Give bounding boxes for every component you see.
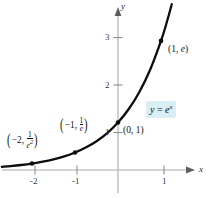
right-paren-neg1: ) [84,120,88,131]
point-label-0-1: (0, 1) (0, 1) [123,126,144,136]
neg1-x-part: −-11, [65,121,80,131]
left-paren-neg2: ( [7,135,11,146]
exponential-function-graph-figure: -2 -1 1 1 2 3 x y (1, e) (1, e) (0, 1) (… [0,0,213,198]
x-tick-label-1: 1 [162,177,167,186]
y-axis-label: y [121,2,125,11]
point-label-neg2-1overEsq: (-2, 1/e^2) (−-22, 1e2) [6,131,39,150]
fraction-numerator: 1 [80,117,84,125]
point-dot-neg2 [30,161,35,166]
y-tick-label-2: 2 [105,81,110,90]
equation-equals: = [157,104,163,115]
equation-callout-render: y = ex [150,104,172,115]
x-axis-arrowhead [186,167,195,174]
point-dot-one [159,39,164,44]
point-dot-neg1 [73,150,78,155]
x-axis-label: x [199,165,203,174]
point-label-1-e: (1, e) (1, e) [168,45,188,55]
fraction-1-over-e: 1e [80,117,84,134]
equation-callout: y = e^x y = ex [146,101,176,118]
fraction-denominator: e [80,124,84,133]
exponent-2: 2 [30,138,33,145]
x-tick-label--1: -1 [72,177,80,186]
fraction-numerator-2: 1 [27,131,34,139]
right-paren-neg2: ) [34,135,38,146]
point-label-neg1-1overE: (-1, 1/e) (−-11, 1e) [59,117,89,134]
point-label-0-1-render: (0, 1) [123,125,144,135]
left-paren-neg1: ( [60,120,64,131]
point-dot-zero [116,120,121,125]
point-label-neg2-render: (−-22, 1e2) [6,131,39,150]
point-label-1-e-render: (1, e) [168,44,188,54]
point-label-neg1-render: (−-11, 1e) [59,117,89,134]
y-tick-label-3: 3 [105,33,110,42]
neg2-x-part: −-22, [12,136,27,146]
graph-canvas [0,0,213,198]
x-tick-label--2: -2 [30,177,38,186]
y-tick-label-1: 1 [105,128,110,137]
equation-lhs: y [150,104,154,115]
fraction-1-over-e-squared: 1e2 [27,131,34,150]
fraction-denominator-2: e2 [27,138,34,149]
equation-exponent: x [170,103,173,110]
